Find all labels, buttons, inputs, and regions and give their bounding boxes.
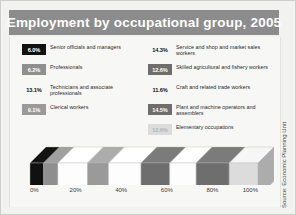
legend-swatch: 14.3% [148,44,172,55]
chart-title-bar: Employment by occupational group, 2005 [9,10,279,35]
axis-tick: 100% [243,187,258,193]
legend-label: Senior officials and managers [50,43,121,50]
legend-swatch: 6.2% [22,64,46,75]
legend-swatch: 11.6% [148,84,172,95]
legend-swatch: 9.1% [22,104,46,115]
legend-label: Technicians and associate professionals [50,83,144,97]
legend-swatch: 6.0% [22,44,46,55]
page-title: Employment by occupational group, 2005 [7,15,282,30]
axis-tick: 20% [70,187,82,193]
legend-item: 13.1% Technicians and associate professi… [22,83,144,100]
bar-svg [16,129,274,185]
legend-item: 9.1% Clerical workers [22,103,144,120]
legend-label: Clerical workers [50,103,88,110]
legend-swatch: 12.6% [148,64,172,75]
axis-tick: 80% [206,187,218,193]
legend-swatch: 13.1% [22,84,46,95]
legend-label: Craft and related trade workers [176,83,250,90]
legend-item: 14.3% Service and shop and market sales … [148,43,270,60]
legend-label: Plant and machine operators and assemble… [176,103,270,117]
legend-item: 6.0% Senior officials and managers [22,43,144,60]
legend-column-right: 14.3% Service and shop and market sales … [148,43,270,143]
axis-tick: 40% [115,187,127,193]
legend-label: Skilled agricultural and fishery workers [176,63,268,70]
axis-tick: 0% [30,187,39,193]
legend-item: 14.5% Plant and machine operators and as… [148,103,270,120]
legend-item: 6.2% Professionals [22,63,144,80]
legend-item: 12.6% Skilled agricultural and fishery w… [148,63,270,80]
legend-label: Service and shop and market sales worker… [176,43,270,57]
legend-swatch: 14.5% [148,104,172,115]
legend: 6.0% Senior officials and managers 6.2% … [22,43,270,143]
source-note: Source: Economic Planning Unit [281,58,293,208]
legend-item: 11.6% Craft and related trade workers [148,83,270,100]
legend-label: Professionals [50,63,82,70]
legend-column-left: 6.0% Senior officials and managers 6.2% … [22,43,144,143]
x-axis: 0%20%40%60%80%100% [16,187,274,199]
stacked-bar-3d [16,129,274,185]
chart-figure: Employment by occupational group, 2005 6… [0,0,296,215]
axis-tick: 60% [161,187,173,193]
chart-panel: 6.0% Senior officials and managers 6.2% … [9,37,281,207]
source-text: Source: Economic Planning Unit [281,122,287,208]
